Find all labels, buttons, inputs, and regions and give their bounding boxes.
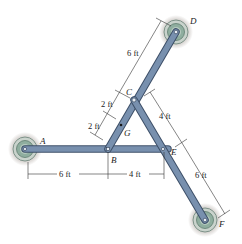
dim-cd: 6 ft xyxy=(127,48,139,58)
dim-ce: 4 ft xyxy=(159,111,171,121)
dim-ef: 6 ft xyxy=(195,170,207,180)
dim-ab: 6 ft xyxy=(59,169,71,179)
label-e: E xyxy=(170,147,177,157)
dim-gb: 2 ft xyxy=(88,121,100,131)
label-b: B xyxy=(111,155,117,165)
member-bd xyxy=(108,32,176,149)
label-g: G xyxy=(124,128,131,138)
label-a: A xyxy=(39,136,46,146)
dim-cg: 2 ft xyxy=(101,99,113,109)
pins xyxy=(23,30,206,222)
label-d: D xyxy=(189,16,197,26)
frame-diagram: 6 ft 2 ft 2 ft 4 ft 6 ft 6 ft 4 ft A B C… xyxy=(0,0,242,244)
dim-be: 4 ft xyxy=(129,169,141,179)
label-f: F xyxy=(218,219,225,229)
label-c: C xyxy=(126,87,133,97)
